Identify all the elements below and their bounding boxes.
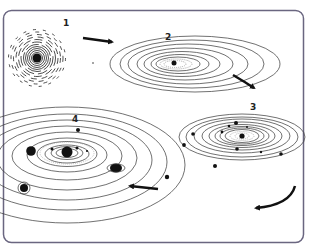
nebula-core: [33, 54, 42, 63]
solar-system-formation-diagram: 1 2: [0, 0, 311, 247]
stage-label-4: 4: [72, 114, 78, 124]
central-star: [62, 147, 73, 158]
stage-label-2: 2: [165, 32, 171, 42]
stage-label-1: 1: [63, 18, 69, 28]
stage-label-3: 3: [250, 102, 256, 112]
